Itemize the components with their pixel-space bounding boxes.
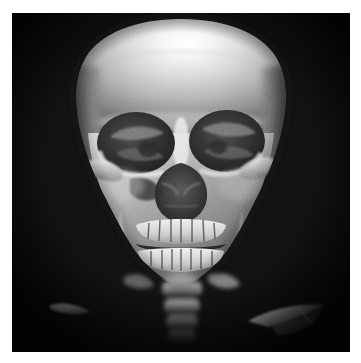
ct-volume-render-canvas [12,13,350,352]
vignette [12,13,350,352]
skull-volume-render [12,13,350,352]
figure-root [0,0,361,363]
